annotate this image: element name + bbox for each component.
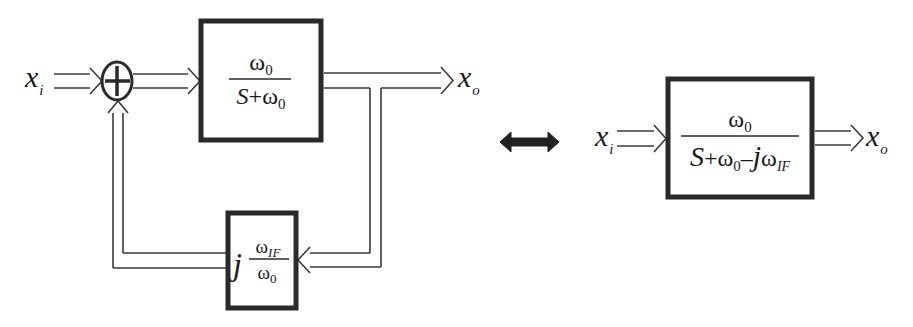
input-arrow-right (617, 125, 666, 152)
output-arrow-right (815, 125, 863, 151)
equivalent-denominator: S+ω0–jωIF (690, 139, 791, 174)
equivalent-transfer-block: ω0 S+ω0–jωIF (668, 79, 812, 197)
forward-transfer-block: ω0 S+ω0 (201, 21, 321, 140)
right-equivalent-system: xi ω0 S+ω0–jωIF (594, 79, 888, 197)
junction-to-block-arrow (133, 68, 200, 94)
feedback-transfer-block: j ωIF ω0 (228, 213, 296, 308)
input-arrow-left (54, 68, 102, 94)
input-label-right: xi (594, 119, 614, 157)
summing-junction (102, 62, 132, 100)
output-label-right: xo (865, 119, 888, 157)
output-label-left: xo (457, 60, 480, 98)
input-label-left: xi (24, 60, 44, 98)
block-diagram-canvas: xi (0, 0, 913, 327)
output-arrow-left (324, 67, 453, 94)
equivalence-double-arrow-icon (500, 132, 559, 152)
left-feedback-system: xi (24, 21, 480, 308)
